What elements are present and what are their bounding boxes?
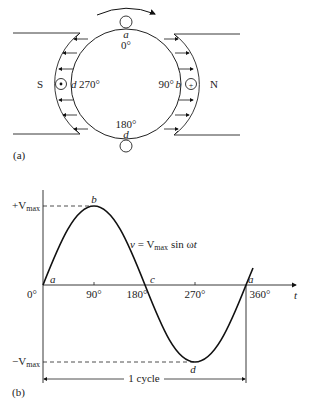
tick-label-180: 180° <box>127 288 148 300</box>
label-90deg: 90° <box>159 78 174 90</box>
figure-b-label: (b) <box>12 386 25 399</box>
point-a-end: a <box>248 273 254 285</box>
y-label-pos-vmax: +Vmax <box>12 199 40 213</box>
label-b: b <box>176 78 182 90</box>
tick-label-360: 360° <box>250 288 271 300</box>
label-d: d <box>71 78 77 90</box>
tick-label-90: 90° <box>86 288 101 300</box>
equation: v = Vmax sin ωt <box>130 238 198 252</box>
label-0deg: 0° <box>121 39 131 51</box>
conductor-d-dot-icon <box>60 83 63 86</box>
label-c: d <box>123 128 129 140</box>
conductor-b-plus-icon: + <box>189 81 194 90</box>
point-a-start: a <box>50 273 56 285</box>
south-pole <box>13 33 80 134</box>
label-270deg: 270° <box>79 78 100 90</box>
north-pole <box>174 34 240 135</box>
label-south: S <box>37 78 43 90</box>
tick-label-270: 270° <box>185 288 206 300</box>
point-d: d <box>190 363 196 375</box>
label-north: N <box>210 78 218 90</box>
cycle-label: 1 cycle <box>128 372 160 384</box>
figure-canvas: + a 0° 90° b 180° d d 270° S N (a) a b c… <box>0 0 311 413</box>
sine-curve <box>43 206 253 362</box>
x-axis-label: t <box>294 289 298 301</box>
conductor-a <box>120 16 132 28</box>
conductor-c <box>120 140 132 152</box>
tick-label-0: 0° <box>27 288 37 300</box>
rotation-arrow-icon <box>97 8 155 15</box>
sine-chart: a b c d a +Vmax −Vmax 0° 90° 180° 270° 3… <box>12 190 298 399</box>
generator-diagram: + a 0° 90° b 180° d d 270° S N (a) <box>13 8 240 162</box>
point-b: b <box>91 193 97 205</box>
point-c: c <box>150 273 155 285</box>
y-label-neg-vmax: −Vmax <box>12 355 40 369</box>
figure-a-label: (a) <box>13 149 26 162</box>
